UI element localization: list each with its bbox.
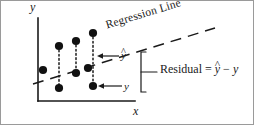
hat-accent-icon: ^ — [121, 47, 126, 57]
residual-observed-letter: y — [233, 62, 238, 76]
predicted-value-arrow — [97, 53, 119, 59]
residual-equation-prefix: Residual = — [160, 62, 215, 76]
observed-value-label: y — [124, 81, 129, 92]
data-point — [72, 37, 80, 45]
data-point — [84, 64, 92, 72]
regression-residual-diagram: y x Regression Line ^y y Residual = ^y −… — [0, 0, 254, 125]
residual-brace — [141, 52, 157, 92]
hat-accent-icon: ^ — [215, 59, 220, 70]
data-point — [89, 82, 97, 90]
data-point — [72, 69, 80, 77]
observed-value-arrow — [98, 83, 122, 89]
residual-minus-sign: − — [220, 62, 233, 76]
y-axis-label: y — [30, 1, 35, 13]
data-point — [89, 29, 97, 37]
predicted-value-label: ^y — [121, 50, 126, 61]
residual-equation-label: Residual = ^y − y — [160, 62, 238, 77]
x-axis-label: x — [133, 105, 138, 117]
data-point — [39, 66, 47, 74]
data-point — [55, 42, 63, 50]
data-point — [55, 84, 63, 92]
